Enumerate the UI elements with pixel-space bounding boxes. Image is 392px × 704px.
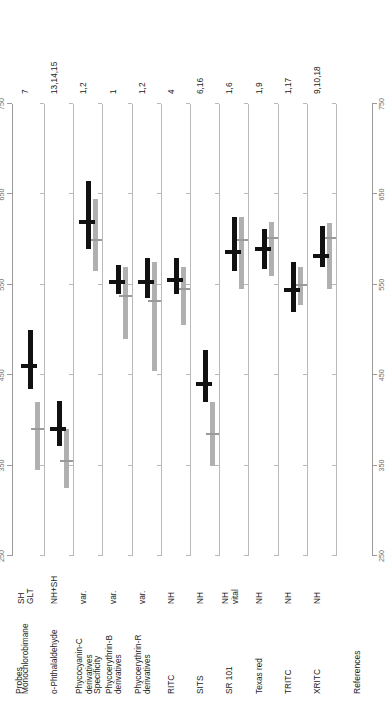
axis-tick-label: 550 (0, 279, 6, 291)
axis-tick-label: 750 (377, 98, 386, 110)
excitation-peak-marker (138, 280, 154, 284)
probe-name: Phycoerythrin-B derivatives (104, 608, 123, 694)
probe-references: 7 (21, 8, 30, 94)
row-baseline-tick (69, 555, 73, 556)
probe-name: Phycocyanin-C derivatives (75, 608, 94, 694)
axis-tick (7, 465, 12, 466)
row-baseline-tick (69, 284, 73, 285)
excitation-peak-marker (313, 254, 329, 258)
emission-range-bar (93, 199, 98, 271)
probe-references: 4 (167, 8, 176, 94)
row-baseline-tick (244, 555, 248, 556)
row-baseline-tick (98, 555, 102, 556)
row-baseline-tick (244, 284, 248, 285)
excitation-range-bar (86, 181, 91, 249)
excitation-range-bar (57, 401, 62, 446)
row-baseline-tick (98, 103, 102, 104)
probe-specificity: SH GLT (17, 564, 36, 604)
row-baseline-tick (157, 465, 161, 466)
spectral-chart-figure: Probes Specificity References Monochloro… (0, 0, 392, 704)
row-baseline (219, 104, 220, 556)
row-baseline-tick (215, 193, 219, 194)
plot-panel: 250350450550650750250350450550650750 (26, 104, 366, 556)
probe-references: 9,10,18 (313, 8, 322, 94)
row-baseline-tick (69, 374, 73, 375)
row-baseline-tick (332, 374, 336, 375)
row-baseline-tick (40, 193, 44, 194)
axis-tick (7, 103, 12, 104)
row-baseline-tick (244, 103, 248, 104)
row-baseline (132, 104, 133, 556)
row-baseline-tick (186, 465, 190, 466)
row-baseline-tick (186, 103, 190, 104)
probe-references: 1,2 (138, 8, 147, 94)
row-baseline-tick (128, 555, 132, 556)
row-baseline-tick (303, 103, 307, 104)
row-baseline-tick (128, 374, 132, 375)
row-baseline-tick (332, 555, 336, 556)
probe-name: XRITC (313, 608, 322, 694)
emission-peak-marker (206, 433, 219, 435)
row-baseline-tick (40, 374, 44, 375)
row-baseline-tick (157, 374, 161, 375)
row-baseline-tick (332, 193, 336, 194)
probe-references: 1,6 (226, 8, 235, 94)
row-baseline-tick (157, 284, 161, 285)
axis-tick-label: 350 (0, 460, 6, 472)
excitation-peak-marker (21, 364, 37, 368)
row-baseline-tick (244, 374, 248, 375)
axis-tick-label: 750 (0, 98, 6, 110)
excitation-range-bar (320, 226, 325, 267)
axis-tick (7, 374, 12, 375)
emission-range-bar (35, 402, 40, 470)
probe-name: Texas red (255, 608, 264, 694)
row-baseline-tick (332, 103, 336, 104)
row-baseline-tick (244, 193, 248, 194)
probe-name: SR 101 (226, 608, 235, 694)
row-baseline-tick (274, 555, 278, 556)
row-baseline-tick (128, 465, 132, 466)
emission-peak-marker (31, 428, 44, 430)
row-baseline (278, 104, 279, 556)
row-baseline (248, 104, 249, 556)
row-baseline-tick (274, 284, 278, 285)
axis-tick-label: 650 (377, 188, 386, 200)
row-baseline-tick (332, 465, 336, 466)
axis-tick-label: 450 (377, 369, 386, 381)
probe-name: o-Phthalaldehyde (50, 608, 59, 694)
row-baseline-tick (215, 465, 219, 466)
emission-peak-marker (148, 300, 161, 302)
axis-tick-label: 350 (377, 460, 386, 472)
probe-specificity: NH (196, 564, 205, 604)
probe-specificity: var. (80, 564, 89, 604)
row-baseline-tick (40, 103, 44, 104)
row-baseline-tick (274, 103, 278, 104)
row-baseline-tick (157, 555, 161, 556)
row-baseline-tick (98, 193, 102, 194)
row-baseline (161, 104, 162, 556)
axis-tick (7, 284, 12, 285)
probe-references: 13,14,15 (50, 8, 59, 94)
excitation-peak-marker (225, 250, 241, 254)
row-baseline-tick (128, 284, 132, 285)
excitation-range-bar (203, 350, 208, 402)
excitation-range-bar (174, 258, 179, 294)
row-baseline-tick (186, 374, 190, 375)
row-baseline-tick (186, 193, 190, 194)
row-baseline-tick (215, 103, 219, 104)
axis-tick-label: 650 (0, 188, 6, 200)
emission-range-bar (64, 429, 69, 488)
row-baseline (307, 104, 308, 556)
probe-name: Phycoerythrin-R derivatives (133, 608, 152, 694)
excitation-peak-marker (167, 278, 183, 282)
row-baseline (73, 104, 74, 556)
row-baseline-tick (69, 193, 73, 194)
row-baseline-tick (98, 374, 102, 375)
probe-references: 1,9 (255, 8, 264, 94)
excitation-range-bar (291, 262, 296, 312)
emission-range-bar (181, 267, 186, 326)
emission-peak-marker (60, 460, 73, 462)
axis-tick (7, 555, 12, 556)
emission-peak-marker (119, 295, 132, 297)
row-baseline (336, 104, 337, 556)
